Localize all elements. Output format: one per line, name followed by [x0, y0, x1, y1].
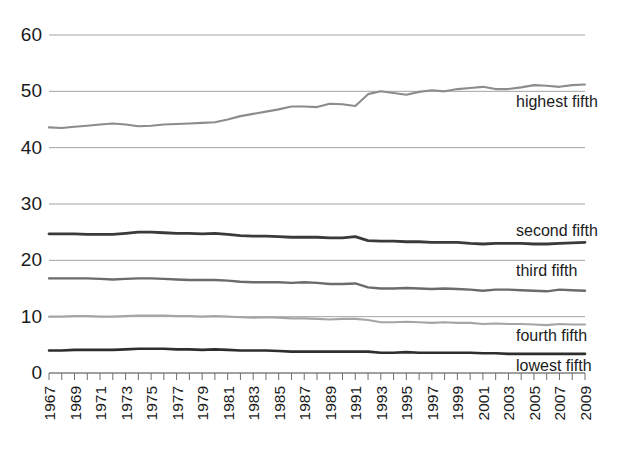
quintile-income-share-chart: 0102030405060 19671969197119731975197719… [0, 0, 626, 454]
x-tick-label: 2007 [551, 386, 568, 420]
x-tick-label: 1977 [169, 386, 186, 420]
x-tick-label: 1981 [220, 386, 237, 420]
series-label-fourth-fifth: fourth fifth [516, 327, 587, 344]
x-tick-label: 2009 [577, 386, 594, 420]
x-tick-label: 1991 [347, 386, 364, 420]
x-tick-label: 2003 [500, 386, 517, 420]
x-tick-label: 1997 [424, 386, 441, 420]
x-tick-label: 1995 [398, 386, 415, 420]
y-tick-label: 20 [21, 249, 42, 270]
series-label-lowest-fifth: lowest fifth [516, 357, 592, 374]
series-label-second-fifth: second fifth [516, 222, 598, 239]
chart-canvas: 0102030405060 19671969197119731975197719… [0, 0, 626, 454]
y-tick-label: 0 [31, 362, 42, 383]
x-tick-label: 1999 [449, 386, 466, 420]
gridlines [49, 35, 585, 373]
series-label-third-fifth: third fifth [516, 262, 577, 279]
x-tick-label: 1985 [271, 386, 288, 420]
y-tick-label: 10 [21, 306, 42, 327]
y-tick-labels: 0102030405060 [21, 24, 42, 383]
series-line-third-fifth [49, 278, 585, 291]
x-tick-label: 1983 [245, 386, 262, 420]
x-tick-label: 1987 [296, 386, 313, 420]
x-tick-label: 1993 [373, 386, 390, 420]
x-tick-label: 1989 [322, 386, 339, 420]
series-line-lowest-fifth [49, 349, 585, 354]
x-tick-label: 1973 [118, 386, 135, 420]
x-tick-labels: 1967196919711973197519771979198119831985… [41, 386, 594, 420]
series-line-second-fifth [49, 232, 585, 244]
x-tick-label: 1969 [67, 386, 84, 420]
x-tick-label: 1967 [41, 386, 58, 420]
series-label-highest-fifth: highest fifth [516, 93, 598, 110]
series-labels: highest fifthsecond fifththird fifthfour… [516, 93, 598, 374]
y-tick-label: 50 [21, 80, 42, 101]
x-axis-ticks [49, 373, 585, 380]
y-tick-label: 60 [21, 24, 42, 45]
x-tick-label: 1975 [143, 386, 160, 420]
data-series [49, 85, 585, 354]
x-tick-label: 1979 [194, 386, 211, 420]
y-tick-label: 40 [21, 137, 42, 158]
x-tick-label: 1971 [92, 386, 109, 420]
x-tick-label: 2001 [475, 386, 492, 420]
x-tick-label: 2005 [526, 386, 543, 420]
y-tick-label: 30 [21, 193, 42, 214]
